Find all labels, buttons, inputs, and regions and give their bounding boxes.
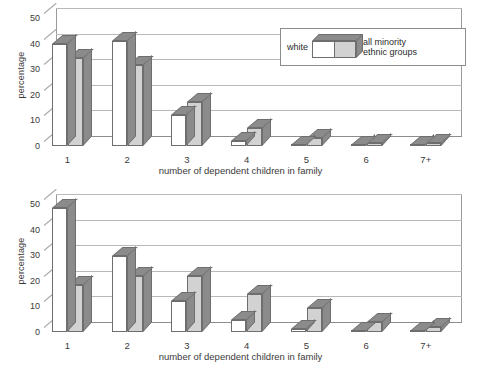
plot-area-bottom: 01020304050 1234567+	[44, 204, 462, 332]
y-tick-label: 20	[30, 91, 40, 100]
x-tick-label: 7+	[420, 340, 431, 351]
x-axis-title-top: number of dependent children in family	[0, 165, 481, 176]
y-tick-label: 50	[30, 14, 40, 23]
bar-west-indian-african-3	[171, 301, 186, 332]
bar-west-indian-african-2	[112, 256, 127, 332]
x-tick-label: 1	[65, 340, 70, 351]
x-tick-label: 3	[184, 154, 189, 165]
x-tick-label: 7+	[420, 154, 431, 165]
x-tick-label: 1	[65, 154, 70, 165]
legend-label-white: white	[287, 42, 308, 53]
x-tick-label: 5	[304, 154, 309, 165]
y-tick-label: 0	[35, 328, 40, 337]
axis-riser	[44, 3, 57, 14]
legend-top: white all minority ethnic groups	[280, 28, 466, 66]
legend-label-minority: all minority ethnic groups	[363, 37, 417, 58]
chart-westindian-vs-pakistani: percentage 01020304050 1234567+ number o…	[0, 186, 481, 372]
x-tick-label: 2	[125, 154, 130, 165]
x-tick-label: 6	[363, 340, 368, 351]
y-tick-label: 50	[30, 200, 40, 209]
y-axis-title-bottom: percentage	[4, 156, 14, 226]
bar-white-7plus	[410, 145, 425, 146]
figure-container: percentage 01020304050 1234567+ number o…	[0, 0, 481, 372]
gridline	[56, 194, 462, 195]
bar-white-3	[171, 115, 186, 146]
bar-all-minority-ethnic-groups-7plus	[426, 143, 441, 146]
y-tick-label: 40	[30, 226, 40, 235]
bars-bottom	[44, 204, 462, 332]
y-tick-label: 30	[30, 65, 40, 74]
bar-white-6	[351, 145, 366, 146]
bar-west-indian-african-7plus	[410, 331, 425, 332]
bar-west-indian-african-4	[231, 320, 246, 332]
x-tick-label: 6	[363, 154, 368, 165]
bar-white-5	[291, 145, 306, 146]
bar-white-4	[231, 141, 246, 146]
y-tick-label: 30	[30, 251, 40, 260]
x-tick-label: 5	[304, 340, 309, 351]
bar-west-indian-african-1	[52, 208, 67, 332]
x-tick-label: 4	[244, 154, 249, 165]
bar-west-indian-african-6	[351, 331, 366, 332]
y-tick-label: 10	[30, 302, 40, 311]
y-tick-label: 10	[30, 116, 40, 125]
y-tick-label: 20	[30, 277, 40, 286]
y-axis-title-top: percentage	[4, 0, 14, 40]
legend-swatch-icon-top	[312, 41, 356, 58]
x-axis-title-bottom: number of dependent children in family	[0, 351, 481, 362]
y-tick-label: 40	[30, 40, 40, 49]
y-tick-label: 0	[35, 142, 40, 151]
x-tick-label: 2	[125, 340, 130, 351]
bar-white-2	[112, 41, 127, 146]
gridline	[56, 8, 462, 9]
axis-riser	[44, 189, 57, 200]
bar-west-indian-african-5	[291, 329, 306, 332]
chart-white-vs-minority: percentage 01020304050 1234567+ number o…	[0, 0, 481, 186]
bar-white-1	[52, 44, 67, 146]
x-tick-label: 4	[244, 340, 249, 351]
bar-all-minority-ethnic-groups-6	[367, 143, 382, 146]
x-tick-label: 3	[184, 340, 189, 351]
